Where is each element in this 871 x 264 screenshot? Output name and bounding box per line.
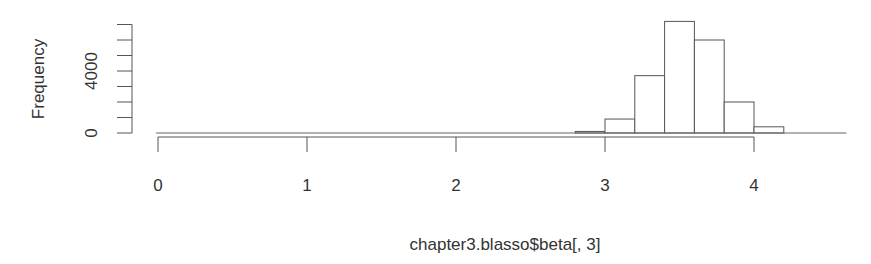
histogram-bar	[754, 127, 784, 133]
y-axis-label: Frequency	[29, 38, 48, 119]
histogram-bar	[605, 119, 635, 133]
x-tick-label: 4	[749, 176, 758, 195]
y-tick-label: 4000	[82, 52, 101, 90]
histogram-bar	[724, 102, 754, 133]
y-axis: 04000	[82, 25, 132, 138]
x-axis-label: chapter3.blasso$beta[, 3]	[410, 235, 601, 254]
histogram-bar	[635, 76, 665, 133]
y-tick-label: 0	[82, 128, 101, 137]
x-tick-label: 0	[153, 176, 162, 195]
x-tick-label: 2	[451, 176, 460, 195]
histogram-bar	[694, 40, 724, 133]
histogram-plot: 01234 04000 chapter3.blasso$beta[, 3] Fr…	[0, 0, 871, 264]
x-tick-label: 3	[600, 176, 609, 195]
x-tick-label: 1	[302, 176, 311, 195]
histogram-bars	[575, 21, 784, 133]
histogram-bar	[665, 21, 695, 133]
x-axis: 01234	[153, 137, 758, 195]
